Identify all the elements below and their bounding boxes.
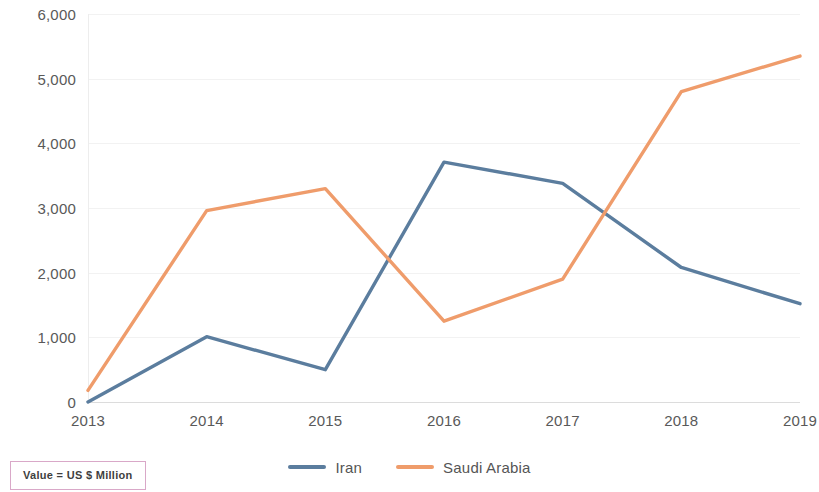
value-axis-tick-label: 6,000 (0, 6, 76, 23)
value-axis: 6,0005,0004,0003,0002,0001,0000 (0, 14, 76, 402)
line-chart: 6,0005,0004,0003,0002,0001,0000 20132014… (0, 0, 819, 492)
legend-item-saudi-arabia[interactable]: Saudi Arabia (396, 459, 530, 476)
category-axis-tick-label: 2013 (71, 412, 105, 429)
series-line-iran (88, 162, 800, 402)
series-container (88, 14, 800, 402)
category-axis: 2013201420152016201720182019 (88, 406, 800, 436)
value-axis-tick-label: 0 (0, 394, 76, 411)
category-axis-tick-label: 2015 (308, 412, 342, 429)
value-axis-tick-label: 4,000 (0, 135, 76, 152)
category-axis-line (88, 402, 800, 403)
footnote-text: Value = US $ Million (23, 469, 133, 481)
plot-area (88, 14, 800, 402)
legend-swatch-icon (288, 465, 326, 469)
series-line-saudi-arabia (88, 56, 800, 390)
value-axis-tick-label: 2,000 (0, 264, 76, 281)
category-axis-tick-label: 2016 (427, 412, 461, 429)
footnote-box: Value = US $ Million (10, 461, 146, 490)
legend-item-iran[interactable]: Iran (288, 459, 362, 476)
category-axis-tick-label: 2018 (664, 412, 698, 429)
value-axis-tick-label: 3,000 (0, 200, 76, 217)
legend-swatch-icon (396, 465, 434, 469)
value-axis-tick-label: 5,000 (0, 70, 76, 87)
value-axis-tick-label: 1,000 (0, 329, 76, 346)
category-axis-tick-label: 2017 (546, 412, 580, 429)
category-axis-tick-label: 2019 (783, 412, 817, 429)
legend-label: Iran (335, 459, 362, 476)
category-axis-tick-label: 2014 (190, 412, 224, 429)
legend-label: Saudi Arabia (443, 459, 530, 476)
